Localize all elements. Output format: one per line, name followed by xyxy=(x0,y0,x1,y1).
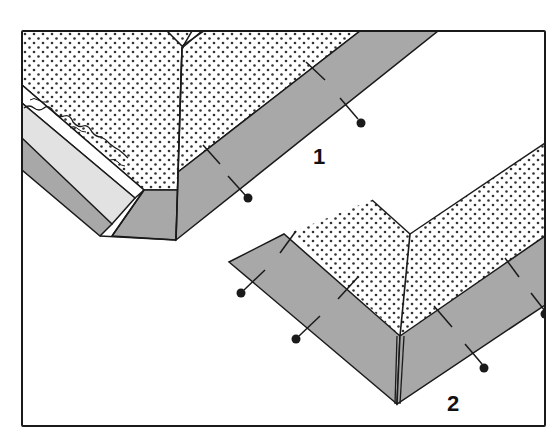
figure-label-1: 1 xyxy=(313,144,325,169)
figure-label-2: 2 xyxy=(447,391,459,416)
figure-2 xyxy=(229,143,550,404)
diagram-canvas: 1 2 xyxy=(0,0,559,434)
sewing-diagram: 1 2 xyxy=(0,0,559,434)
